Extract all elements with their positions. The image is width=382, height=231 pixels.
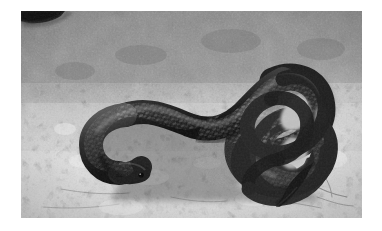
film-grain	[21, 11, 362, 218]
photograph	[21, 11, 362, 218]
photo-page: Black-and-white photograph of a dark sna…	[0, 0, 382, 231]
photograph-canvas	[21, 11, 362, 218]
